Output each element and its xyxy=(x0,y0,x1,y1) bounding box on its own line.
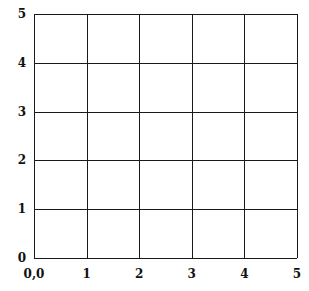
x-axis-tick-label: 0,0 xyxy=(14,268,54,280)
x-axis-tick-label: 5 xyxy=(277,268,309,280)
plot-area xyxy=(34,14,297,258)
x-axis-tick-label: 4 xyxy=(224,268,264,280)
y-axis-tick-label: 3 xyxy=(2,106,26,118)
y-axis-tick-label: 5 xyxy=(2,8,26,20)
coordinate-grid-figure: 012345 0,012345 xyxy=(0,0,309,291)
y-axis-tick-label: 1 xyxy=(2,203,26,215)
grid-lines xyxy=(34,14,297,258)
x-axis-tick-label: 3 xyxy=(172,268,212,280)
y-axis-tick-label: 0 xyxy=(2,252,26,264)
x-axis-tick-label: 1 xyxy=(67,268,107,280)
y-axis-tick-label: 4 xyxy=(2,57,26,69)
y-axis-tick-label: 2 xyxy=(2,154,26,166)
x-axis-tick-label: 2 xyxy=(119,268,159,280)
